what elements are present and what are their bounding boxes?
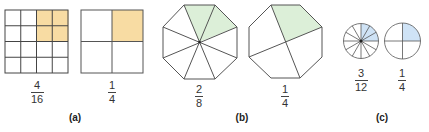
octagon-8-slices	[163, 5, 237, 79]
square-grid-4x4	[5, 10, 69, 73]
denominator: 4	[270, 97, 300, 109]
fraction-2-8: 2 8	[184, 84, 214, 109]
shaded-region	[112, 10, 143, 42]
panel-label-c: (c)	[367, 112, 397, 123]
circle-12-slices	[344, 24, 379, 59]
denominator: 16	[22, 93, 52, 105]
octagon-4-slices	[249, 5, 322, 78]
panel-label-b: (b)	[227, 112, 257, 123]
equivalent-fractions-figure: 4 16 1 4 2 8 1 4 3 12 1 4 (a) (b) (c)	[0, 0, 429, 132]
fraction-3-12: 3 12	[346, 68, 376, 93]
numerator: 1	[270, 84, 300, 96]
numerator: 1	[387, 68, 417, 80]
numerator: 3	[346, 68, 376, 80]
fraction-1-4-a: 1 4	[97, 80, 127, 105]
denominator: 8	[184, 97, 214, 109]
fraction-4-16: 4 16	[22, 80, 52, 105]
numerator: 4	[22, 80, 52, 92]
square-grid-2x2	[81, 10, 143, 73]
denominator: 12	[346, 81, 376, 93]
panel-label-a: (a)	[60, 112, 90, 123]
numerator: 1	[97, 80, 127, 92]
circle-4-slices	[385, 23, 421, 59]
denominator: 4	[387, 81, 417, 93]
fraction-1-4-c: 1 4	[387, 68, 417, 93]
fraction-1-4-b: 1 4	[270, 84, 300, 109]
numerator: 2	[184, 84, 214, 96]
denominator: 4	[97, 93, 127, 105]
